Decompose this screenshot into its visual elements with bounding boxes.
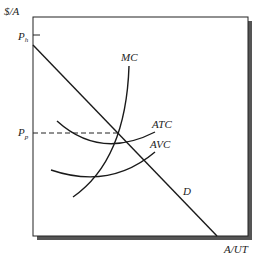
price-high-label: Ph (17, 30, 29, 44)
plot-frame (33, 17, 248, 236)
price-p-label: Pp (17, 126, 29, 141)
frame-shadow-right (248, 21, 252, 240)
cost-curves-diagram: $/A Ph Pp MC ATC AVC D A/UT (0, 0, 265, 262)
frame-shadow-bottom (37, 236, 252, 240)
y-axis-label: $/A (4, 5, 20, 17)
mc-label: MC (120, 51, 138, 63)
x-axis-label: A/UT (223, 243, 249, 255)
atc-label: ATC (151, 118, 172, 130)
avc-label: AVC (149, 138, 171, 150)
demand-label: D (182, 185, 191, 197)
